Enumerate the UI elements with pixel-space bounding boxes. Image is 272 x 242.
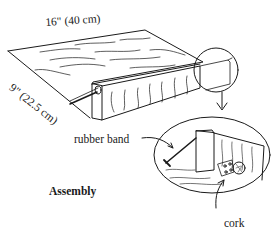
assembly-illustration: 16" (40 cm) 9" (22.5 cm) rubber band Ass…: [0, 0, 272, 242]
assembly-drawing: [0, 0, 272, 242]
rubber-band-label: rubber band: [74, 134, 129, 146]
arrow-down: [217, 92, 227, 110]
cork-label: cork: [224, 218, 244, 230]
rubber-band-main: [70, 86, 101, 104]
magnifier-circle: [194, 48, 238, 92]
figure-caption: Assembly: [49, 186, 96, 198]
detail-inset: [154, 117, 270, 193]
